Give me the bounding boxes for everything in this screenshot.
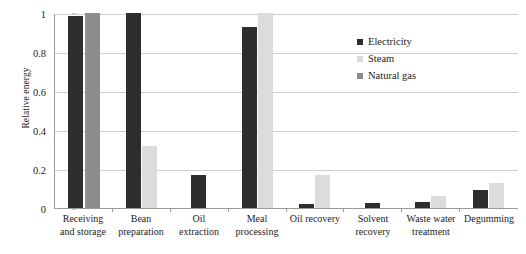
x-axis-tick-label-line: Meal <box>228 213 286 226</box>
bar-steam <box>258 13 273 208</box>
bar-electricity <box>242 27 257 208</box>
y-axis-tick-label: 0.4 <box>22 126 46 137</box>
legend-swatch-icon <box>357 73 363 79</box>
bar-electricity <box>126 13 141 208</box>
x-axis-tick-label-line: recovery <box>344 226 402 239</box>
y-axis-tick-label: 0 <box>22 204 46 215</box>
bar-electricity <box>299 204 314 208</box>
x-axis-tick-label: Oilextraction <box>170 213 228 238</box>
bar-group <box>113 14 171 208</box>
bar-set <box>473 14 505 208</box>
x-axis-tick-label-line: Receiving <box>54 213 112 226</box>
legend: ElectricitySteamNatural gas <box>357 33 416 84</box>
x-axis-tick-label: Waste watertreatment <box>402 213 460 238</box>
x-axis-tick-label-line: processing <box>228 226 286 239</box>
x-axis-tick-mark <box>170 208 171 212</box>
bar-group <box>171 14 229 208</box>
y-axis-tick-label: 0.8 <box>22 48 46 59</box>
bar-steam <box>489 183 504 208</box>
bar-set <box>191 14 208 208</box>
bar-chart-figure: Relative energy 00.20.40.60.81 Receiving… <box>0 0 526 254</box>
y-axis-tick-label: 0.2 <box>22 165 46 176</box>
legend-label: Electricity <box>368 36 412 47</box>
x-axis-tick-label-line: Waste water <box>402 213 460 226</box>
bar-electricity <box>473 190 488 208</box>
x-axis-tick-label: Beanpreparation <box>112 213 170 238</box>
y-axis-tick-label: 0.6 <box>22 87 46 98</box>
bar-set <box>415 14 447 208</box>
x-axis-tick-label: Oil recovery <box>286 213 344 238</box>
bar-set <box>242 14 274 208</box>
x-axis-tick-mark <box>228 208 229 212</box>
legend-label: Natural gas <box>368 70 416 81</box>
y-axis-tick-label: 1 <box>22 9 46 20</box>
x-axis-tick-mark <box>459 208 460 212</box>
x-axis-tick-mark <box>343 208 344 212</box>
x-axis-tick-label: Solventrecovery <box>344 213 402 238</box>
bar-group <box>55 14 113 208</box>
x-axis-tick-mark <box>401 208 402 212</box>
x-axis-tick-mark <box>112 208 113 212</box>
x-axis-tick-label-line: Oil <box>170 213 228 226</box>
bar-steam <box>315 175 330 208</box>
x-axis-tick-label: Degumming <box>460 213 518 238</box>
x-axis-tick-label-line: Bean <box>112 213 170 226</box>
bar-natural-gas <box>85 13 100 208</box>
x-axis-tick-label-line: treatment <box>402 226 460 239</box>
bar-groups <box>55 14 518 208</box>
bar-group <box>287 14 345 208</box>
x-axis-tick-label-line: Oil recovery <box>286 213 344 226</box>
x-axis-tick-label-line: extraction <box>170 226 228 239</box>
x-axis-tick-label-line: and storage <box>54 226 112 239</box>
x-axis-tick-labels: Receivingand storageBeanpreparationOilex… <box>54 213 518 238</box>
bar-electricity <box>415 202 430 208</box>
bar-steam <box>142 146 157 208</box>
legend-label: Steam <box>368 53 394 64</box>
x-axis-tick-mark <box>286 208 287 212</box>
legend-swatch-icon <box>357 56 363 62</box>
bar-set <box>68 14 100 208</box>
x-axis-tick-label-line: Degumming <box>460 213 518 226</box>
y-axis-tick-labels: 00.20.40.60.81 <box>22 0 46 254</box>
plot-area <box>54 14 518 209</box>
x-axis-tick-label: Receivingand storage <box>54 213 112 238</box>
legend-item[interactable]: Natural gas <box>357 67 416 84</box>
bar-steam <box>431 196 446 208</box>
x-axis-tick-label: Mealprocessing <box>228 213 286 238</box>
legend-item[interactable]: Electricity <box>357 33 416 50</box>
x-axis-tick-label-line: Solvent <box>344 213 402 226</box>
bar-electricity <box>68 16 83 208</box>
legend-item[interactable]: Steam <box>357 50 416 67</box>
bar-electricity <box>191 175 206 208</box>
bar-set <box>299 14 331 208</box>
legend-swatch-icon <box>357 39 363 45</box>
bar-group <box>229 14 287 208</box>
bar-group <box>460 14 518 208</box>
x-axis-tick-label-line: preparation <box>112 226 170 239</box>
bar-set <box>126 14 158 208</box>
bar-electricity <box>365 203 380 208</box>
